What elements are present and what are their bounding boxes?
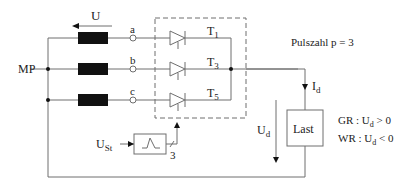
inductor-c-icon xyxy=(78,94,108,106)
label-ust: USt xyxy=(96,137,113,153)
label-mp: MP xyxy=(18,62,36,76)
label-rectifier-mode: GR : Ud > 0 xyxy=(338,114,391,129)
label-t3: T3 xyxy=(207,55,219,71)
thyristor-t5-icon xyxy=(170,93,231,111)
terminal-b xyxy=(130,66,136,72)
label-id: Id xyxy=(312,79,321,95)
u-arrowhead-icon xyxy=(72,23,79,29)
thyristor-t3-icon xyxy=(170,62,298,80)
inductor-b-icon xyxy=(78,63,108,75)
cathode-junction-dot xyxy=(229,67,233,71)
mp-junction-dot xyxy=(46,67,50,71)
control-output-wire xyxy=(166,128,177,144)
control-arrowhead-icon xyxy=(174,122,180,128)
terminal-c xyxy=(130,97,136,103)
terminal-a xyxy=(130,35,136,41)
label-u: U xyxy=(91,8,101,23)
id-arrowhead-icon xyxy=(302,84,308,90)
mp-junction-dot-c xyxy=(46,98,50,102)
label-ud: Ud xyxy=(257,123,271,139)
ud-arrowhead-icon xyxy=(273,157,279,163)
label-t1: T1 xyxy=(207,24,219,40)
m3-circuit-diagram: U MP a b c T1 T3 T5 Pulszahl p = 3 Id Ud… xyxy=(0,0,414,190)
label-channels: 3 xyxy=(170,149,176,161)
label-inverter-mode: WR : Ud < 0 xyxy=(338,132,394,147)
label-c: c xyxy=(130,85,135,97)
label-b: b xyxy=(130,54,136,66)
label-pulse-count: Pulszahl p = 3 xyxy=(291,36,354,48)
thyristor-t1-icon xyxy=(170,31,231,49)
label-t5: T5 xyxy=(207,86,219,102)
control-input-arrowhead-icon xyxy=(128,141,134,147)
inductor-a-icon xyxy=(78,32,108,44)
label-load: Last xyxy=(293,122,314,136)
label-a: a xyxy=(130,23,135,35)
